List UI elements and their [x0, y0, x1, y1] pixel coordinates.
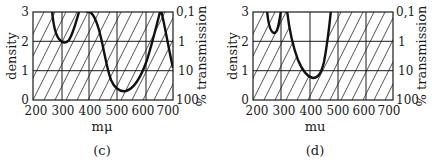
y2tick-1: 1	[178, 35, 186, 49]
ytick-3: 3	[241, 5, 249, 19]
y-axis-right: 100 10 1 0,1 % transmission	[176, 5, 209, 107]
y2-axis-label: % transmission	[414, 5, 429, 107]
xtick-500: 500	[106, 104, 129, 118]
chart-d: 0 1 2 3 density 100 10 1 0,1 % transmiss…	[220, 5, 429, 158]
x-axis: 200 300 400 500 600 700 mμ	[25, 104, 180, 134]
y-axis-right: 100 10 1 0,1 % transmission	[396, 5, 429, 107]
y-axis-left: 0 1 2 3 density	[4, 5, 29, 107]
y2tick-0.1: 0,1	[396, 5, 415, 19]
figure: 0 1 2 3 density 100 10 1 0,1 % transmiss…	[0, 0, 444, 165]
ytick-1: 1	[21, 64, 29, 78]
xtick-600: 600	[353, 104, 376, 118]
ytick-2: 2	[21, 35, 29, 49]
x-axis: 200 300 400 500 600 700 mu	[246, 104, 401, 134]
chart-c: 0 1 2 3 density 100 10 1 0,1 % transmiss…	[0, 5, 209, 158]
ytick-2: 2	[241, 35, 249, 49]
y2tick-0.1: 0,1	[176, 5, 195, 19]
xtick-400: 400	[79, 104, 102, 118]
x-axis-label: mu	[305, 119, 326, 134]
xtick-300: 300	[273, 104, 296, 118]
xtick-600: 600	[132, 104, 155, 118]
x-axis-label: mμ	[92, 119, 113, 134]
xtick-500: 500	[327, 104, 350, 118]
caption-c: (c)	[93, 143, 110, 158]
y2tick-1: 1	[398, 35, 406, 49]
y-axis-label: density	[4, 31, 19, 79]
y2tick-10: 10	[398, 64, 413, 78]
xtick-200: 200	[246, 104, 269, 118]
y-axis-left: 0 1 2 3 density	[225, 5, 249, 107]
xtick-700: 700	[378, 104, 401, 118]
ytick-3: 3	[21, 5, 29, 19]
ytick-1: 1	[241, 64, 249, 78]
y2tick-10: 10	[178, 64, 193, 78]
y2-axis-label: % transmission	[194, 5, 209, 107]
caption-d: (d)	[306, 143, 324, 158]
xtick-700: 700	[157, 104, 180, 118]
xtick-300: 300	[52, 104, 75, 118]
xtick-200: 200	[25, 104, 48, 118]
y-axis-label: density	[225, 31, 240, 79]
xtick-400: 400	[300, 104, 323, 118]
